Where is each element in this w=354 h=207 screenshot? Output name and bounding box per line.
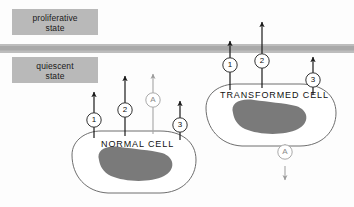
transformed-marker-2-label: 2 [255, 54, 269, 68]
proliferative-state-label: proliferative state [12, 9, 98, 35]
quiescent-state-line1: quiescent [12, 61, 98, 71]
quiescent-state-line2: state [12, 71, 98, 81]
proliferative-state-line2: state [12, 23, 98, 33]
transformed-marker-a-label: A [278, 145, 292, 159]
proliferative-state-line1: proliferative [12, 13, 98, 23]
normal-marker-3-label: 3 [173, 118, 187, 132]
transformed-marker-3-label: 3 [306, 73, 320, 87]
transformed-marker-1-label: 1 [223, 58, 237, 72]
threshold-band [0, 44, 354, 53]
transformed-cell-label: TRANSFORMED CELL [220, 90, 329, 100]
quiescent-state-label: quiescent state [12, 57, 98, 83]
normal-marker-1-label: 1 [87, 113, 101, 127]
figure-canvas: proliferative state quiescent state NORM… [0, 0, 354, 207]
normal-marker-2-label: 2 [118, 103, 132, 117]
normal-marker-a-label: A [146, 93, 160, 107]
normal-cell-label: NORMAL CELL [101, 139, 174, 149]
